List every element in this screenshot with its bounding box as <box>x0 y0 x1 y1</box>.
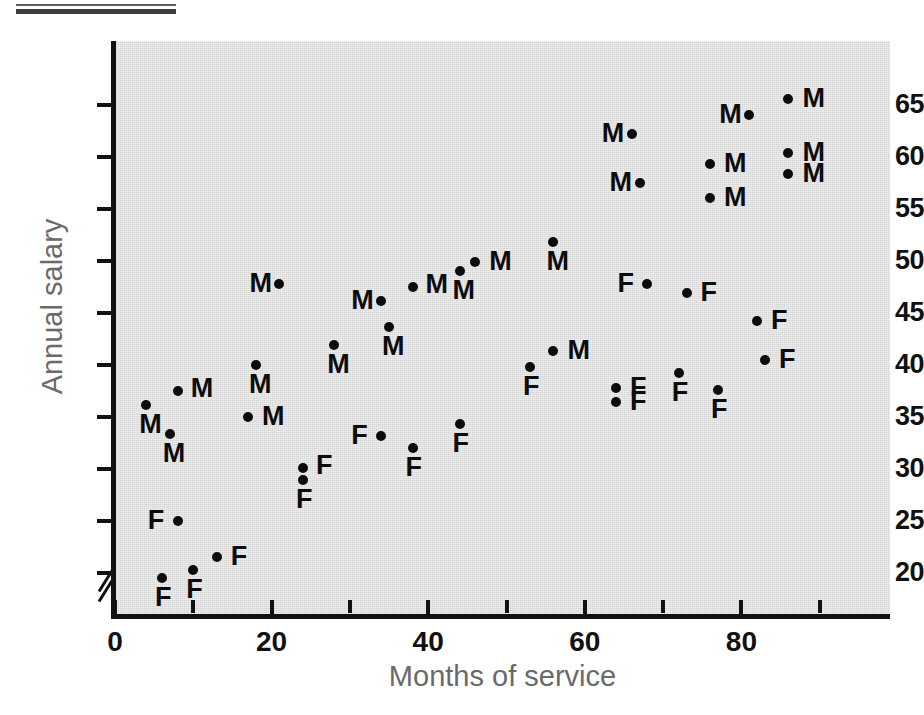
data-point-label-f: F <box>672 379 689 406</box>
data-point-label-f: F <box>617 270 634 297</box>
data-point-label-f: F <box>453 430 470 457</box>
data-point <box>682 288 692 298</box>
scatter-plot-figure: 20253035404550556065020406080 MMMMMMMMMM… <box>0 0 924 715</box>
x-tick-label-80: 80 <box>706 626 776 658</box>
y-tick-label-50: 50 <box>836 245 924 276</box>
data-point-label-f: F <box>630 388 647 415</box>
data-point-label-m: M <box>567 337 590 364</box>
x-axis-title: Months of service <box>115 660 890 693</box>
x-minor-tick-50 <box>505 600 509 613</box>
y-tick-65 <box>97 103 114 107</box>
x-tick-80 <box>739 600 743 618</box>
y-tick-label-30: 30 <box>836 453 924 484</box>
y-axis-title: Annual salary <box>36 137 69 477</box>
data-point-label-m: M <box>426 271 449 298</box>
y-tick-30 <box>97 467 114 471</box>
data-point-label-m: M <box>489 248 512 275</box>
data-point <box>635 178 645 188</box>
data-point-label-f: F <box>351 422 368 449</box>
data-point-label-m: M <box>327 351 350 378</box>
data-point-label-f: F <box>406 454 423 481</box>
data-point <box>705 193 715 203</box>
y-tick-55 <box>97 207 114 211</box>
data-point-label-m: M <box>382 333 405 360</box>
data-point-label-m: M <box>602 120 625 147</box>
data-point-label-f: F <box>711 396 728 423</box>
x-tick-label-60: 60 <box>550 626 620 658</box>
x-tick-20 <box>270 600 274 618</box>
data-point-label-m: M <box>139 411 162 438</box>
data-point <box>376 296 386 306</box>
y-tick-35 <box>97 415 114 419</box>
data-point-label-f: F <box>186 576 203 603</box>
data-point <box>173 386 183 396</box>
y-tick-label-20: 20 <box>836 557 924 588</box>
data-point <box>376 431 386 441</box>
x-tick-label-20: 20 <box>237 626 307 658</box>
data-point-label-f: F <box>779 346 796 373</box>
data-point <box>298 463 308 473</box>
data-point-label-m: M <box>610 169 633 196</box>
data-point-label-m: M <box>249 371 272 398</box>
data-point-label-m: M <box>802 85 825 112</box>
data-point-label-f: F <box>316 452 333 479</box>
data-point-label-f: F <box>148 507 165 534</box>
data-point-label-m: M <box>453 277 476 304</box>
x-tick-40 <box>426 600 430 618</box>
data-point <box>783 169 793 179</box>
y-tick-label-65: 65 <box>836 89 924 120</box>
y-tick-label-40: 40 <box>836 349 924 380</box>
y-tick-label-60: 60 <box>836 141 924 172</box>
data-point <box>611 383 621 393</box>
x-minor-tick-70 <box>661 600 665 613</box>
data-point-label-f: F <box>523 373 540 400</box>
y-tick-60 <box>97 155 114 159</box>
y-tick-label-35: 35 <box>836 401 924 432</box>
data-point-label-m: M <box>802 160 825 187</box>
x-axis-line <box>111 614 890 619</box>
data-point <box>627 129 637 139</box>
x-tick-0 <box>113 600 117 618</box>
y-tick-40 <box>97 363 114 367</box>
data-point-label-f: F <box>701 279 718 306</box>
data-point-label-m: M <box>546 248 569 275</box>
data-point-label-m: M <box>724 150 747 177</box>
data-point-label-m: M <box>724 184 747 211</box>
x-tick-label-0: 0 <box>80 626 150 658</box>
y-tick-50 <box>97 259 114 263</box>
data-point-label-f: F <box>155 584 172 611</box>
data-point-label-f: F <box>296 486 313 513</box>
data-point <box>408 282 418 292</box>
y-axis-line <box>111 41 116 614</box>
data-point-label-m: M <box>249 270 272 297</box>
y-tick-20 <box>97 571 114 575</box>
x-minor-tick-30 <box>348 600 352 613</box>
x-tick-60 <box>583 600 587 618</box>
data-point <box>173 516 183 526</box>
y-tick-label-55: 55 <box>836 193 924 224</box>
data-point-label-f: F <box>231 543 248 570</box>
data-point-label-m: M <box>191 375 214 402</box>
x-tick-label-40: 40 <box>393 626 463 658</box>
y-tick-45 <box>97 311 114 315</box>
y-tick-label-45: 45 <box>836 297 924 328</box>
data-point-label-m: M <box>262 403 285 430</box>
y-tick-label-25: 25 <box>836 505 924 536</box>
data-point <box>760 355 770 365</box>
data-point-label-f: F <box>771 307 788 334</box>
y-tick-25 <box>97 519 114 523</box>
y-axis-break-marker <box>97 576 127 602</box>
x-minor-tick-90 <box>818 600 822 613</box>
data-point-label-m: M <box>163 440 186 467</box>
data-point-label-m: M <box>719 101 742 128</box>
data-point-label-m: M <box>351 287 374 314</box>
